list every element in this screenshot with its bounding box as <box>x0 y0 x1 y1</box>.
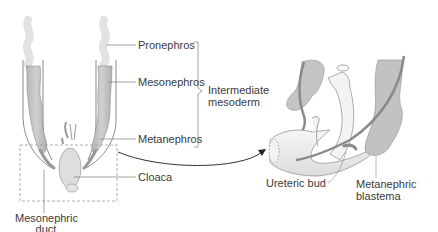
cloaca-structure <box>59 122 81 192</box>
label-pronephros: Pronephros <box>138 39 195 51</box>
right-nephric-cord <box>84 20 116 168</box>
label-intermediate-mesoderm-line1: Intermediate <box>208 84 269 96</box>
ureteric-bud-detail <box>269 56 404 183</box>
label-metanephros: Metanephros <box>138 133 202 145</box>
label-intermediate-mesoderm-line2: mesoderm <box>208 96 260 108</box>
label-metanephric-blastema-line1: Metanephric <box>356 178 417 190</box>
label-metanephric-blastema-line2: blastema <box>356 190 401 202</box>
label-cloaca: Cloaca <box>138 171 172 183</box>
label-ureteric-bud: Ureteric bud <box>266 177 326 189</box>
label-mesonephros: Mesonephros <box>138 76 205 88</box>
kidney-development-diagram: Pronephros Mesonephros Metanephros Inter… <box>0 0 438 232</box>
left-nephric-cord <box>23 20 54 168</box>
label-mesonephric-duct-line2: duct <box>15 223 77 232</box>
connector-arrow <box>118 152 262 166</box>
